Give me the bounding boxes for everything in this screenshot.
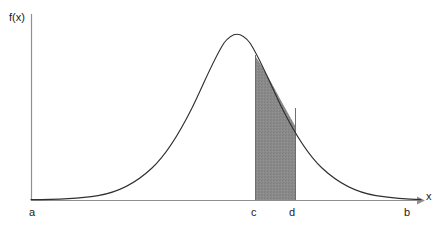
tick-label-b: b — [404, 207, 410, 218]
tick-label-d: d — [289, 207, 295, 218]
plot-area — [0, 0, 440, 231]
tick-label-c: c — [251, 207, 257, 218]
y-axis-label: f(x) — [9, 12, 25, 23]
x-axis-label: x — [426, 191, 432, 202]
density-curve — [31, 34, 421, 199]
density-curve-figure: f(x) x a c d b — [0, 0, 440, 231]
shaded-area-c-to-d — [31, 35, 425, 200]
tick-label-a: a — [29, 207, 35, 218]
x-axis-arrow-icon — [417, 197, 425, 205]
